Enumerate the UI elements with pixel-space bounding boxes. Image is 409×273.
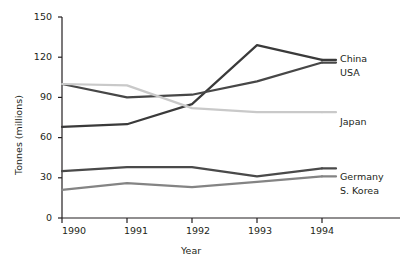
series-label-germany: Germany [340, 172, 384, 182]
series-label-skorea: S. Korea [340, 186, 379, 196]
x-tick-label-1990: 1990 [50, 226, 98, 236]
series-line-s-korea [62, 176, 322, 189]
series-label-japan: Japan [340, 117, 367, 127]
y-tick-label-30: 30 [22, 172, 52, 182]
x-tick-label-1991: 1991 [112, 226, 160, 236]
x-tick-label-1992: 1992 [174, 226, 222, 236]
x-axis-ticks [62, 218, 322, 223]
y-axis-title: Tonnes (millions) [14, 95, 24, 175]
y-tick-label-0: 0 [22, 213, 52, 223]
y-tick-label-90: 90 [22, 92, 52, 102]
series-line-china [62, 45, 322, 127]
series-label-china: China [340, 54, 367, 64]
x-tick-label-1994: 1994 [298, 226, 346, 236]
y-tick-label-150: 150 [22, 12, 52, 22]
series-line-germany [62, 167, 322, 176]
y-tick-label-60: 60 [22, 132, 52, 142]
series-lines [62, 45, 336, 190]
x-tick-label-1993: 1993 [236, 226, 284, 236]
series-label-usa: USA [340, 68, 360, 78]
series-line-usa [62, 63, 322, 98]
x-axis-title: Year [181, 246, 201, 256]
series-line-japan [62, 84, 322, 112]
y-tick-label-120: 120 [22, 52, 52, 62]
line-chart: 150 120 90 60 30 0 1990 1991 1992 1993 1… [0, 0, 409, 273]
